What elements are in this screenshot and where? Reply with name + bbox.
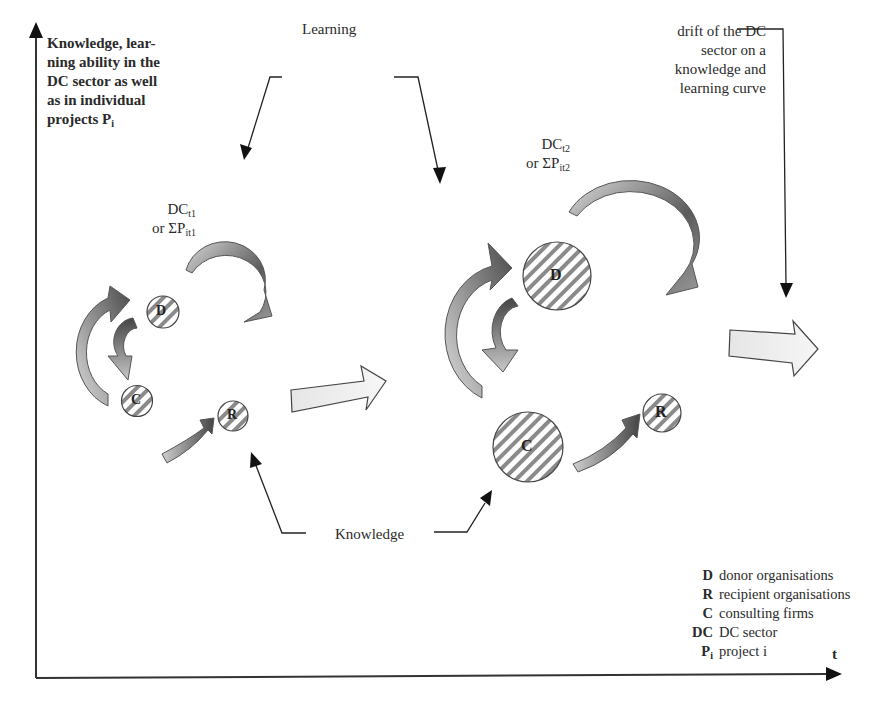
y-axis-label-text: projects P xyxy=(47,111,111,127)
y-axis-label-line: projects Pi xyxy=(47,110,217,129)
knowledge-pointer-left xyxy=(255,463,306,533)
legend-key-sub: i xyxy=(710,650,713,661)
state-t2-line1-text: DC xyxy=(541,136,562,152)
state-t2-line1: DCt2 xyxy=(470,135,570,154)
legend-value: DC sector xyxy=(719,623,777,642)
drift-note: drift of the DC sector on a knowledge an… xyxy=(596,22,766,98)
flow-arrow-c-to-r xyxy=(162,418,214,463)
transition-arrow-1 xyxy=(291,366,386,412)
state-t1-group xyxy=(76,242,272,463)
legend-key: DC xyxy=(680,623,719,642)
node-d-t1-label: D xyxy=(156,303,166,319)
y-axis-label-line: as in individual xyxy=(47,91,217,110)
legend: Ddonor organisations Rrecipient organisa… xyxy=(680,566,850,661)
state-t2-group xyxy=(445,181,699,482)
legend-value: donor organisations xyxy=(719,566,834,585)
legend-item: Rrecipient organisations xyxy=(680,585,850,604)
drift-note-line: learning curve xyxy=(596,79,766,98)
y-axis-label-line: Knowledge, lear- xyxy=(47,34,217,53)
legend-key: R xyxy=(680,585,719,604)
drift-note-line: knowledge and xyxy=(596,60,766,79)
legend-item: Piproject i xyxy=(680,642,850,661)
node-r-t1-label: R xyxy=(227,407,237,423)
learning-pointer-left xyxy=(248,77,282,148)
knowledge-arrowhead-right-icon xyxy=(480,490,492,506)
legend-item: Cconsulting firms xyxy=(680,604,850,623)
y-axis xyxy=(29,22,43,678)
node-d-t2-label: D xyxy=(550,266,562,284)
state-t2-label: DCt2 or ΣPit2 xyxy=(470,135,570,173)
y-axis-label: Knowledge, lear- ning ability in the DC … xyxy=(47,34,217,129)
legend-item: DCDC sector xyxy=(680,623,850,642)
x-axis xyxy=(36,667,842,681)
y-axis-label-subscript: i xyxy=(111,118,114,129)
state-t1-line2: or ΣPit1 xyxy=(96,219,196,238)
knowledge-label: Knowledge xyxy=(335,525,404,543)
state-t2-line2: or ΣPit2 xyxy=(470,154,570,173)
learning-arrowhead-left-icon xyxy=(240,144,252,160)
state-t1-label: DCt1 or ΣPit1 xyxy=(96,200,196,238)
node-c-t2-label: C xyxy=(521,437,533,455)
learning-label: Learning xyxy=(302,20,356,38)
node-r-t2-label: R xyxy=(655,403,667,421)
legend-key: C xyxy=(680,604,719,623)
legend-value: recipient organisations xyxy=(719,585,850,604)
learning-pointer-right xyxy=(394,77,438,170)
legend-key: Pi xyxy=(680,642,719,661)
learning-arrowhead-right-icon xyxy=(433,167,446,184)
drift-note-line: drift of the DC xyxy=(596,22,766,41)
legend-item: Ddonor organisations xyxy=(680,566,850,585)
state-t1-line1-sub: t1 xyxy=(188,208,196,219)
x-axis-label: t xyxy=(832,645,837,663)
cycle-arrow-small-left xyxy=(108,318,137,380)
drift-note-line: sector on a xyxy=(596,41,766,60)
y-axis-label-line: DC sector as well xyxy=(47,72,217,91)
legend-key: D xyxy=(680,566,719,585)
drift-arrowhead-icon xyxy=(780,283,793,298)
legend-key-text: P xyxy=(701,643,710,659)
flow-arrow-c-to-r-t2 xyxy=(573,414,640,472)
cycle-arrow-small-left-t2 xyxy=(482,298,518,372)
y-axis-label-line: ning ability in the xyxy=(47,53,217,72)
cycle-arrow-top xyxy=(186,242,272,322)
legend-value: consulting firms xyxy=(719,604,814,623)
state-t1-line2-text: or ΣP xyxy=(152,220,185,236)
node-c-t1-label: C xyxy=(131,392,141,408)
knowledge-pointer-right xyxy=(434,503,485,532)
state-t1-line1-text: DC xyxy=(167,201,188,217)
state-t1-line1: DCt1 xyxy=(96,200,196,219)
state-t2-line1-sub: t2 xyxy=(562,143,570,154)
legend-value: project i xyxy=(719,642,767,661)
drift-arrow xyxy=(729,321,818,376)
knowledge-arrowhead-left-icon xyxy=(250,452,262,468)
state-t2-line2-text: or ΣP xyxy=(526,155,559,171)
state-t2-line2-sub: it2 xyxy=(559,162,570,173)
state-t1-line2-sub: it1 xyxy=(185,227,196,238)
